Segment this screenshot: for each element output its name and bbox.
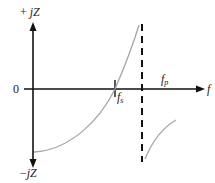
y-positive-label: + jZ [20, 6, 40, 18]
fs-label: fs [117, 91, 123, 105]
y-positive-text: jZ [30, 5, 40, 19]
diagram-canvas [0, 0, 215, 183]
y-positive-sign: + [20, 5, 27, 19]
origin-label: 0 [13, 83, 19, 95]
reactance-curve-upper-branch [145, 120, 176, 159]
y-negative-label: −jZ [20, 167, 37, 179]
fp-sub: p [164, 78, 168, 87]
x-axis-arrow-icon [196, 86, 205, 93]
fs-sub: s [120, 96, 123, 105]
fp-label: fp [161, 73, 168, 87]
x-axis-label: f [207, 83, 210, 95]
y-negative-text: jZ [27, 166, 37, 180]
y-axis-up-arrow-icon [30, 22, 37, 31]
reactance-diagram: + jZ −jZ 0 f fs fp [0, 0, 215, 183]
y-negative-sign: − [20, 166, 27, 180]
